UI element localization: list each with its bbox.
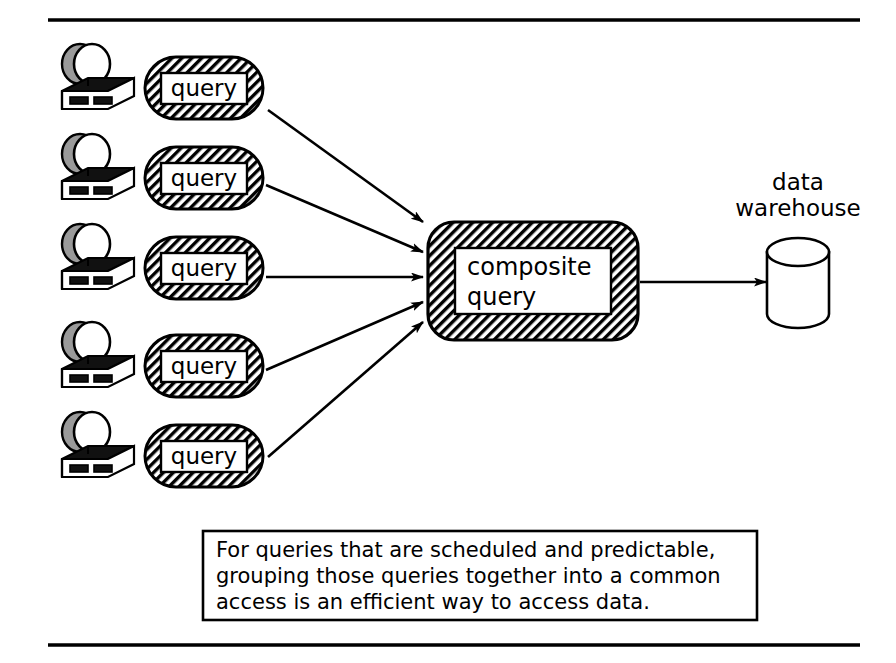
- query-pill-label-2: query: [171, 165, 237, 191]
- arrow-query-5-to-composite: [268, 322, 423, 457]
- arrow-query-4-to-composite: [266, 302, 423, 370]
- diagram-figure: query query query: [0, 0, 896, 663]
- cylinder-icon: [767, 238, 829, 328]
- caption-line-3: access is an efficient way to access dat…: [216, 590, 650, 614]
- query-pill-1[interactable]: query: [145, 57, 263, 119]
- caption-line-2: grouping those queries together into a c…: [216, 564, 721, 588]
- diagram-canvas: query query query: [0, 0, 896, 663]
- query-pill-5[interactable]: query: [145, 425, 263, 487]
- source-row-2: query: [62, 134, 423, 252]
- composite-query-label-line1: composite: [467, 253, 592, 281]
- workstation-icon-5: [62, 412, 134, 477]
- query-pill-3[interactable]: query: [145, 237, 263, 299]
- query-pill-label-3: query: [171, 255, 237, 281]
- warehouse-label-line1: data: [772, 169, 824, 195]
- source-row-3: query: [62, 224, 423, 299]
- caption-line-1: For queries that are scheduled and predi…: [216, 538, 715, 562]
- workstation-icon-3: [62, 224, 134, 289]
- composite-query-label-line2: query: [467, 283, 536, 311]
- arrow-query-2-to-composite: [266, 185, 423, 252]
- query-pill-label-1: query: [171, 75, 237, 101]
- workstation-icon-4: [62, 322, 134, 387]
- source-row-4: query: [62, 302, 423, 397]
- caption-box: For queries that are scheduled and predi…: [203, 531, 757, 620]
- query-pill-label-4: query: [171, 353, 237, 379]
- workstation-icon-1: [62, 44, 134, 109]
- composite-query-box[interactable]: composite query: [428, 222, 638, 340]
- query-pill-4[interactable]: query: [145, 335, 263, 397]
- query-pill-2[interactable]: query: [145, 147, 263, 209]
- data-warehouse[interactable]: data warehouse: [735, 169, 860, 328]
- query-pill-label-5: query: [171, 443, 237, 469]
- workstation-icon-2: [62, 134, 134, 199]
- warehouse-label-line2: warehouse: [735, 195, 860, 221]
- arrow-query-1-to-composite: [268, 110, 423, 222]
